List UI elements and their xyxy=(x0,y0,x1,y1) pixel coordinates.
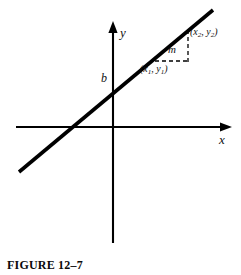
point-1-label: (x1, y1) xyxy=(140,64,168,74)
x-axis-arrow-icon xyxy=(220,122,232,131)
point-1-close-paren: ) xyxy=(164,63,167,74)
y-axis-label: y xyxy=(120,26,126,39)
x-axis-label: x xyxy=(219,133,225,146)
slope-label: m xyxy=(168,44,176,55)
line-graph-diagram xyxy=(0,0,241,275)
plotted-line xyxy=(19,10,213,172)
point-2-close-paren: ) xyxy=(214,26,217,37)
figure-container: y x b m (x2, y2) (x1, y1) FIGURE 12–7 xyxy=(0,0,241,275)
y-axis-arrow-icon xyxy=(108,21,117,33)
figure-caption: FIGURE 12–7 xyxy=(7,258,83,273)
point-2-y-subscript: 2 xyxy=(211,31,215,39)
point-2-label: (x2, y2) xyxy=(190,27,218,37)
point-1-x-subscript: 1 xyxy=(148,68,152,76)
y-intercept-label: b xyxy=(101,72,107,84)
point-1-y-subscript: 1 xyxy=(161,68,165,76)
point-2-x-subscript: 2 xyxy=(198,31,202,39)
